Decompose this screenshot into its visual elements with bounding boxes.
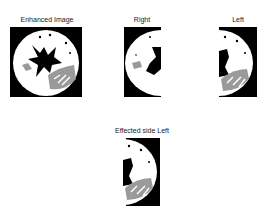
- effected-side-image: [123, 138, 160, 206]
- left-panel: [219, 27, 257, 97]
- effected-side-panel: [123, 138, 160, 206]
- left-title: Left: [218, 16, 258, 23]
- enhanced-image-title: Enhanced Image: [10, 16, 84, 23]
- right-hemisphere-image: [124, 27, 161, 97]
- brain-scan-image: [10, 27, 82, 97]
- right-panel: [124, 27, 161, 97]
- left-hemisphere-image: [219, 27, 257, 97]
- enhanced-image-panel: [10, 27, 82, 97]
- effected-side-title: Effected side Left: [110, 127, 174, 134]
- right-title: Right: [122, 16, 162, 23]
